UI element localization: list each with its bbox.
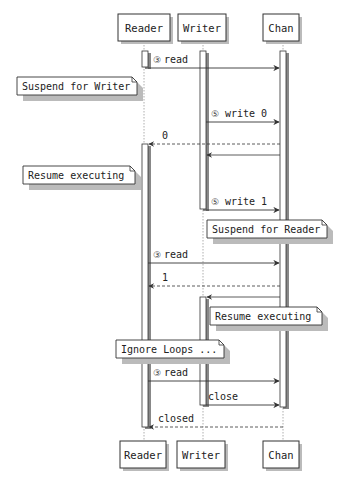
message-closed: closed — [149, 413, 283, 427]
participant-label: Chan — [268, 22, 293, 34]
message-write-1: ⑤ write 1 — [206, 196, 279, 210]
note-label: Resume executing — [215, 311, 311, 322]
message-read-1: ③ read — [148, 54, 279, 68]
note-label: Ignore Loops ... — [121, 344, 217, 355]
participant-label: Reader — [125, 22, 163, 34]
message-write-0: ⑤ write 0 — [206, 108, 279, 122]
activation-writer-1 — [200, 51, 209, 211]
message-label: close — [208, 391, 238, 402]
message-label: read — [164, 367, 188, 378]
note-label: Suspend for Writer — [22, 81, 130, 92]
note-suspend-for-writer: Suspend for Writer — [17, 77, 143, 101]
note-suspend-for-reader: Suspend for Reader — [207, 220, 333, 244]
participant-label: Reader — [124, 449, 162, 461]
sequence-number: ⑤ — [211, 197, 219, 207]
activation-reader-1 — [142, 51, 151, 69]
message-label: read — [164, 249, 188, 260]
participant-writer-top: Writer — [178, 14, 229, 44]
message-label: 0 — [162, 130, 168, 141]
sequence-number: ③ — [153, 250, 161, 260]
message-return-1: 1 — [149, 272, 280, 286]
participant-label: Writer — [182, 449, 220, 461]
message-label: 1 — [162, 272, 168, 283]
message-label: closed — [158, 413, 194, 424]
participant-reader-top: Reader — [118, 14, 173, 44]
message-label: write 0 — [225, 108, 267, 119]
sequence-number: ⑤ — [211, 109, 219, 119]
note-label: Suspend for Reader — [212, 224, 320, 235]
note-resume-executing-reader: Resume executing — [23, 166, 141, 190]
participant-writer-bottom: Writer — [177, 441, 228, 471]
message-label: write 1 — [225, 196, 267, 207]
note-ignore-loops: Ignore Loops ... — [116, 340, 230, 364]
note-label: Resume executing — [28, 170, 124, 181]
participant-reader-bottom: Reader — [120, 441, 169, 471]
message-return-0: 0 — [149, 130, 280, 144]
message-close: close — [206, 391, 279, 405]
message-read-3: ③ read — [148, 367, 279, 381]
message-read-2: ③ read — [148, 249, 279, 263]
sequence-number: ③ — [153, 55, 161, 65]
activation-reader-2 — [142, 144, 151, 429]
participant-label: Writer — [183, 22, 221, 34]
sequence-diagram: Reader Writer Chan ③ read — [0, 0, 347, 485]
note-resume-executing-writer: Resume executing — [210, 307, 328, 331]
participant-label: Chan — [268, 449, 293, 461]
participant-chan-top: Chan — [263, 14, 302, 44]
participant-chan-bottom: Chan — [263, 441, 302, 471]
sequence-number: ③ — [153, 368, 161, 378]
message-label: read — [164, 54, 188, 65]
